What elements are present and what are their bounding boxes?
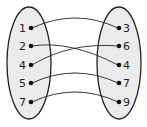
range-label: 4 [123, 59, 130, 72]
mapping-diagram: 1 2 4 5 7 3 6 4 7 9 [0, 0, 147, 127]
range-label: 7 [123, 77, 130, 90]
domain-label: 7 [19, 96, 26, 109]
range-label: 9 [123, 96, 130, 109]
domain-label: 1 [19, 22, 26, 35]
domain-label: 4 [19, 59, 26, 72]
range-label: 6 [123, 40, 130, 53]
domain-label: 5 [19, 77, 26, 90]
range-label: 3 [123, 22, 130, 35]
domain-label: 2 [19, 40, 26, 53]
